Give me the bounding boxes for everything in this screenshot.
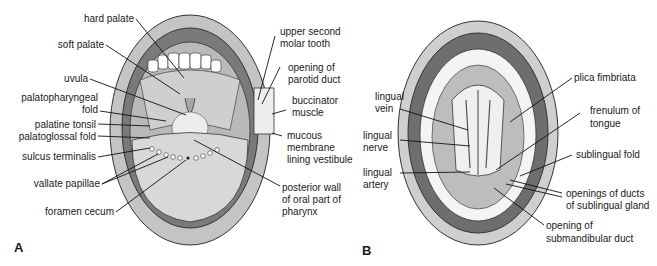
label-mucous: mucous [287,130,322,142]
label-hard-palate: hard palate [70,13,134,25]
label-plica-fimbriata: plica fimbriata [574,72,636,84]
label-sublingual-fold: sublingual fold [576,149,640,161]
label-lingual-vein-2: vein [375,103,393,115]
panel-letter-a: A [14,240,23,255]
label-tongue: tongue [590,118,621,130]
label-oral-part-of: of oral part of [282,194,341,206]
label-buccinator: buccinator [292,95,338,107]
label-palatopharyngeal-fold: fold [10,104,98,116]
label-opening-of-b: opening of [546,220,593,232]
label-opening-of: opening of [288,62,335,74]
mouth-a-drawing [110,15,274,245]
label-sulcus-terminalis: sulcus terminalis [4,151,96,163]
label-lingual-nerve-1: lingual [363,130,392,142]
label-molar-tooth: molar tooth [280,38,330,50]
label-lingual-artery-1: lingual [363,167,392,179]
label-muscle: muscle [292,107,324,119]
label-lingual-artery-2: artery [363,179,389,191]
label-sublingual-gland: of sublingual gland [566,200,649,212]
label-palatoglossal-fold: palatoglossal fold [4,131,96,143]
panel-letter-b: B [362,243,371,258]
label-membrane: membrane [287,142,335,154]
label-posterior-wall: posterior wall [282,182,341,194]
label-frenulum-of: frenulum of [590,105,640,117]
label-lining-vestibule: lining vestibule [287,154,353,166]
label-foramen-cecum: foramen cecum [20,206,114,218]
mouth-b-drawing [398,21,558,245]
label-palatopharyngeal: palatopharyngeal [10,92,98,104]
label-lingual-vein-1: lingual [375,91,404,103]
label-upper-second: upper second [280,26,341,38]
label-openings-of-ducts: openings of ducts [566,188,644,200]
label-vallate-papillae: vallate papillae [4,178,100,190]
label-soft-palate: soft palate [40,39,104,51]
label-pharynx: pharynx [282,206,318,218]
label-parotid-duct: parotid duct [288,74,340,86]
label-lingual-nerve-2: nerve [363,142,388,154]
label-submandibular-duct: submandibular duct [546,233,633,245]
label-uvula: uvula [40,73,88,85]
label-palatine-tonsil: palatine tonsil [10,119,96,131]
